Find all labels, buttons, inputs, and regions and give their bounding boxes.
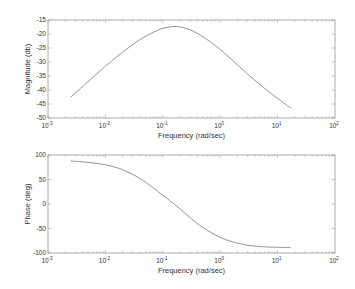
- y-tick-label: 0: [42, 200, 46, 207]
- x-tick-label: 101: [272, 256, 282, 265]
- x-tick-label: 10-1: [156, 256, 168, 265]
- y-tick-label: -50: [37, 114, 47, 121]
- y-tick-label: -40: [37, 86, 47, 93]
- x-tick-label: 102: [329, 121, 339, 130]
- y-tick-label: -35: [37, 72, 47, 79]
- data-line: [71, 26, 291, 108]
- y-tick-label: -15: [37, 16, 47, 23]
- x-tick-label: 100: [214, 121, 224, 130]
- y-tick-label: 100: [35, 151, 46, 158]
- x-axis-label: Frequency (rad/sec): [158, 131, 226, 140]
- y-tick-label: -50: [37, 225, 47, 232]
- data-line: [71, 161, 291, 248]
- axes-frame: [48, 155, 335, 253]
- phase-axis-label: Phase (deg): [23, 183, 32, 224]
- bode-plot: 10-310-210-1100101102-15-20-25-30-35-40-…: [0, 0, 355, 289]
- y-tick-label: -100: [33, 249, 46, 256]
- y-tick-label: 50: [39, 176, 47, 183]
- x-tick-label: 100: [214, 256, 224, 265]
- x-tick-label: 10-2: [99, 256, 111, 265]
- y-tick-label: -30: [37, 58, 47, 65]
- y-tick-label: -20: [37, 30, 47, 37]
- magnitude-axes: 10-310-210-1100101102-15-20-25-30-35-40-…: [23, 16, 339, 140]
- x-tick-label: 10-2: [99, 121, 111, 130]
- phase-axes: 10-310-210-1100101102100500-50-100Freque…: [23, 151, 339, 275]
- x-tick-label: 10-1: [156, 121, 168, 130]
- magnitude-axis-label: Magnitude (db): [23, 43, 32, 94]
- x-tick-label: 10-3: [41, 121, 53, 130]
- x-tick-label: 10-3: [41, 256, 53, 265]
- x-tick-label: 101: [272, 121, 282, 130]
- y-tick-label: -45: [37, 100, 47, 107]
- x-tick-label: 102: [329, 256, 339, 265]
- y-tick-label: -25: [37, 44, 47, 51]
- x-axis-label: Frequency (rad/sec): [158, 266, 226, 275]
- axes-frame: [48, 20, 335, 118]
